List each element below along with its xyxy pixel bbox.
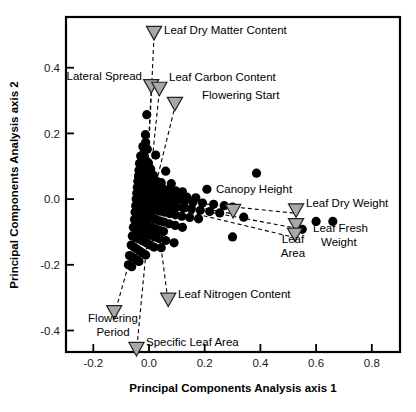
scatter-point (215, 208, 224, 217)
x-tick-label: 0.8 (364, 357, 380, 369)
label-leaf-area-line1: Leaf (282, 233, 305, 245)
label-specific-leaf-area: Specific Leaf Area (146, 336, 239, 348)
y-axis-title: Principal Components Analysis axis 2 (8, 81, 20, 288)
label-lateral-spread: Lateral Spread (67, 70, 142, 82)
label-leaf-carbon-content: Leaf Carbon Content (169, 71, 277, 83)
x-tick-label: -0.2 (83, 357, 103, 369)
scatter-plot-svg: -0.2 0.0 0.2 0.4 0.6 0.8 0.4 0.2 0.0 -0.… (0, 0, 416, 412)
loading-triangle-marker (288, 204, 303, 218)
scatter-point (161, 167, 170, 176)
scatter-point (178, 223, 187, 232)
label-leaf-area-line2: Area (281, 247, 306, 259)
x-tick-label: 0.2 (197, 357, 213, 369)
loading-triangle-marker (161, 293, 176, 307)
loading-triangle-marker (167, 97, 182, 111)
scatter-point (177, 212, 186, 221)
y-tick-label: -0.4 (40, 325, 60, 337)
scatter-point (169, 238, 178, 247)
pca-biplot-figure: -0.2 0.0 0.2 0.4 0.6 0.8 0.4 0.2 0.0 -0.… (0, 0, 416, 412)
label-leaf-fresh-weight-line1: Leaf Fresh (313, 222, 368, 234)
y-tick-label: 0.2 (44, 128, 60, 140)
scatter-point (194, 214, 203, 223)
x-tick-label: 0.6 (308, 357, 324, 369)
y-tick-label: 0.4 (44, 62, 61, 74)
x-axis-title: Principal Components Analysis axis 1 (129, 382, 337, 394)
variable-labels: Leaf Dry Matter Content Lateral Spread L… (67, 24, 389, 348)
y-tick-labels: 0.4 0.2 0.0 -0.2 -0.4 (40, 62, 60, 337)
loading-triangle-marker (146, 26, 161, 40)
label-leaf-nitrogen-content: Leaf Nitrogen Content (178, 288, 291, 300)
scatter-point (252, 169, 261, 178)
scatter-point (228, 232, 237, 241)
y-tick-label: 0.0 (44, 193, 60, 205)
label-flowering-period-line2: Period (96, 326, 129, 338)
x-tick-label: 0.0 (141, 357, 157, 369)
label-leaf-dry-weight: Leaf Dry Weight (306, 197, 389, 209)
y-tick-label: -0.2 (40, 259, 60, 271)
label-leaf-fresh-weight-line2: Weight (321, 236, 357, 248)
label-leaf-dry-matter-content: Leaf Dry Matter Content (164, 24, 288, 36)
scatter-point (239, 213, 248, 222)
label-canopy-height: Canopy Height (216, 183, 293, 195)
label-flowering-start: Flowering Start (202, 89, 280, 101)
scatter-point (202, 185, 211, 194)
y-axis-ticks (66, 68, 74, 331)
label-flowering-period-line1: Flowering (88, 312, 138, 324)
scatter-point (185, 213, 194, 222)
x-tick-labels: -0.2 0.0 0.2 0.4 0.6 0.8 (83, 357, 379, 369)
loading-triangle-marker (129, 342, 144, 356)
figure-canvas: -0.2 0.0 0.2 0.4 0.6 0.8 0.4 0.2 0.0 -0.… (0, 0, 416, 412)
x-tick-label: 0.4 (252, 357, 269, 369)
